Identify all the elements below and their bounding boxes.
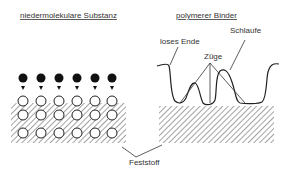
trains-label: Züge xyxy=(204,52,223,61)
right-panel-title: polymerer Binder xyxy=(176,11,237,20)
loose-end-label: loses Ende xyxy=(160,37,200,46)
solid-label: Feststoff xyxy=(129,158,160,167)
loop-label: Schlaufe xyxy=(230,26,262,35)
left-panel-title: niedermolekulare Substanz xyxy=(20,11,117,20)
right-solid-block xyxy=(159,106,274,143)
polymer-chain xyxy=(157,64,279,105)
adsorption-diagram: niedermolekulare Substanz xyxy=(0,0,291,175)
